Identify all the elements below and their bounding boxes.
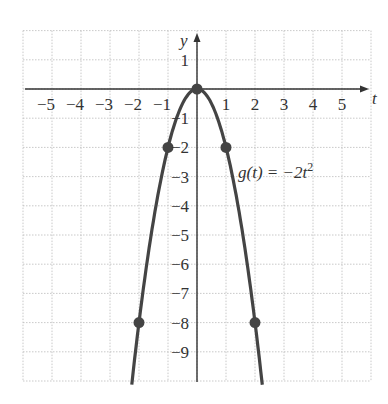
y-tick-label: −5: [171, 226, 189, 245]
y-tick-label: −4: [171, 197, 190, 216]
x-tick-label: −3: [95, 95, 113, 114]
x-tick-label: 1: [222, 95, 231, 114]
parabola-chart: −5−4−3−2−112345 1−1−2−3−4−5−6−7−8−9 t y …: [0, 0, 388, 404]
x-tick-label: −1: [153, 95, 171, 114]
y-tick-label: −3: [171, 168, 189, 187]
data-point: [250, 317, 261, 328]
y-tick-label: −7: [171, 284, 190, 303]
x-axis-label: t: [372, 89, 378, 108]
y-axis-label: y: [178, 31, 188, 50]
x-tick-label: 4: [309, 95, 318, 114]
data-point: [221, 142, 232, 153]
x-axis-arrow-icon: [360, 86, 369, 93]
x-tick-label: −4: [66, 95, 85, 114]
y-tick-label: −8: [171, 314, 189, 333]
y-tick-label: −6: [171, 255, 189, 274]
data-point: [192, 84, 203, 95]
x-tick-label: 5: [338, 95, 347, 114]
x-tick-labels: −5−4−3−2−112345: [37, 95, 346, 114]
y-tick-label: −1: [171, 109, 189, 128]
function-label: g(t) = −2t2: [238, 160, 313, 182]
x-tick-label: 3: [280, 95, 289, 114]
x-tick-label: −2: [124, 95, 142, 114]
x-tick-label: 2: [251, 95, 260, 114]
data-point: [134, 317, 145, 328]
y-axis-arrow-icon: [194, 33, 201, 42]
y-tick-label: −2: [171, 138, 189, 157]
y-tick-label: −9: [171, 343, 189, 362]
y-tick-label: 1: [181, 51, 190, 70]
x-tick-label: −5: [37, 95, 55, 114]
